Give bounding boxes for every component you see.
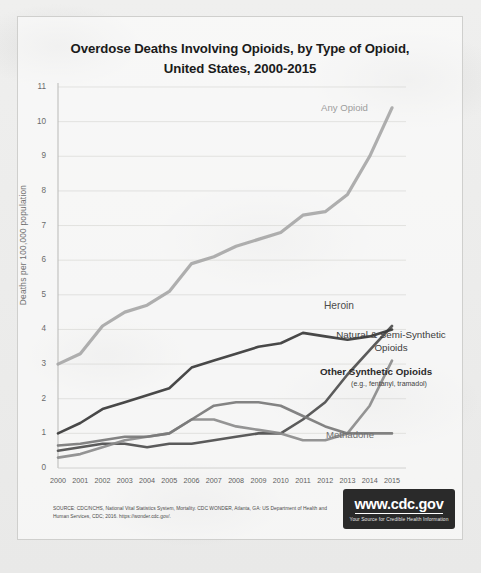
series-sublabel-other-synthetic-opioids: (e.g., fentanyl, tramadol) — [333, 380, 445, 387]
series-label-methadone: Methadone — [326, 429, 374, 440]
cdc-logo[interactable]: www.cdc.gov Your Source for Credible Hea… — [343, 489, 455, 529]
series-label-heroin: Heroin — [324, 300, 354, 311]
chart-svg — [0, 0, 481, 573]
series-label-any-opioid: Any Opioid — [321, 102, 368, 113]
cdc-tagline: Your Source for Credible Health Informat… — [350, 517, 449, 522]
series-label-natural-semi-synthetic-opioids: Natural & Semi-Synthetic Opioids — [327, 328, 455, 354]
series-label-other-synthetic-opioids: Other Synthetic Opioids — [320, 366, 432, 377]
cdc-url-text: www.cdc.gov — [355, 496, 444, 514]
source-note: SOURCE: CDC/NCHS, National Vital Statist… — [53, 505, 343, 521]
series-line-any-opioid — [58, 108, 392, 364]
plot-area: Deaths per 100,000 population 0123456789… — [0, 0, 481, 573]
